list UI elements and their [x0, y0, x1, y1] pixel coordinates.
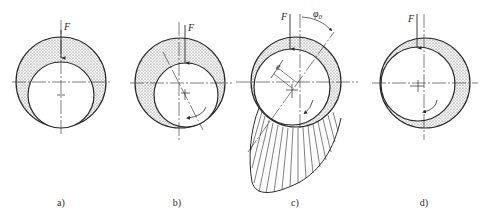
panel-c: e F φ0 [236, 8, 358, 193]
caption-a: a) [57, 197, 65, 208]
caption-c: c) [291, 197, 299, 208]
force-label: F [407, 13, 415, 24]
caption-b: b) [173, 197, 181, 208]
caption-d: d) [420, 197, 428, 208]
force-label: F [187, 22, 195, 33]
journal [154, 63, 218, 127]
panel-d: F [372, 13, 478, 140]
panel-a: F [12, 20, 112, 136]
force-label: F [63, 21, 71, 32]
bearing-diagram: F F [0, 0, 488, 220]
force-label: F [280, 11, 288, 22]
eccentricity-label: e [276, 61, 281, 72]
panel-b: F [130, 22, 232, 140]
